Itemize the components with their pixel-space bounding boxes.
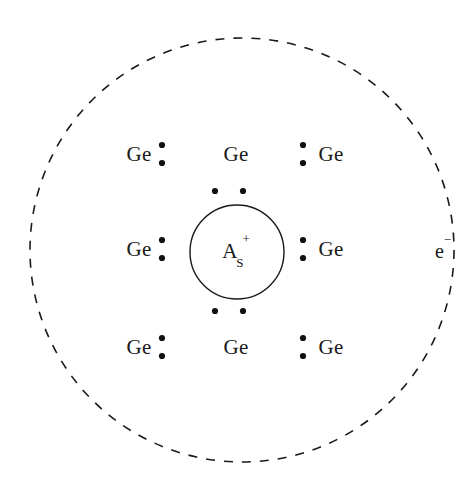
electron-dot — [300, 237, 306, 243]
electron-dot — [300, 335, 306, 341]
bond-core-to-mid-right — [300, 237, 306, 261]
lattice-atom-2-2: Ge — [319, 337, 344, 358]
electron-dot — [300, 353, 306, 359]
electron-dot — [212, 188, 218, 194]
bond-top-mid-to-top-right — [300, 142, 306, 166]
electron-dot — [300, 255, 306, 261]
electron-dot — [159, 160, 165, 166]
electron-dot — [159, 255, 165, 261]
bond-top-left-to-top-mid — [159, 142, 165, 166]
lattice-atom-0-0: Ge — [127, 144, 152, 165]
lattice-atom-1-0: Ge — [127, 239, 152, 260]
diagram-canvas: GeGeGeGeGeGeGeGe AS+ e− — [0, 0, 472, 491]
bond-bottom-mid-to-bottom-right — [300, 335, 306, 359]
donor-element-symbol: A — [222, 239, 237, 263]
electron-dot — [159, 335, 165, 341]
free-electron-label: e− — [435, 239, 451, 261]
electron-dot — [159, 237, 165, 243]
donor-subscript: S — [236, 255, 243, 270]
lattice-atom-0-2: Ge — [319, 144, 344, 165]
lattice-atom-0-1: Ge — [224, 144, 249, 165]
donor-charge-superscript: + — [243, 231, 250, 246]
electron-dot — [300, 142, 306, 148]
free-electron-symbol: e — [435, 240, 444, 262]
electron-dot — [159, 142, 165, 148]
bond-mid-left-to-core — [159, 237, 165, 261]
bond-core-to-bottom-mid — [212, 308, 246, 314]
electron-dot — [212, 308, 218, 314]
lattice-atom-2-0: Ge — [127, 337, 152, 358]
bond-bottom-left-to-bottom-mid — [159, 335, 165, 359]
donor-ion-label: AS+ — [222, 239, 252, 265]
electron-dot — [240, 308, 246, 314]
electron-dot — [240, 188, 246, 194]
lattice-atom-2-1: Ge — [224, 337, 249, 358]
free-electron-charge: − — [444, 232, 451, 247]
electron-dot — [159, 353, 165, 359]
electron-dot — [300, 160, 306, 166]
bond-top-mid-to-core — [212, 188, 246, 194]
lattice-atom-1-2: Ge — [319, 239, 344, 260]
